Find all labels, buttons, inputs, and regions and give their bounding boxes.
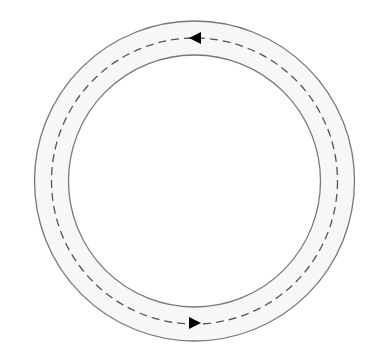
ring-band: [35, 21, 355, 341]
circular-track-diagram: [0, 0, 383, 364]
inner-circle: [69, 55, 321, 307]
